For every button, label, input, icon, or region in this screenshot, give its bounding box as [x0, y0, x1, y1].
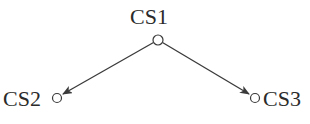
node-label-cs1: CS1 — [130, 6, 168, 28]
node-label-cs3: CS3 — [263, 88, 301, 110]
node-cs3 — [251, 94, 260, 103]
node-label-cs2: CS2 — [3, 88, 41, 110]
node-cs2 — [53, 94, 62, 103]
edge-cs1-to-cs2 — [63, 43, 154, 95]
edge-cs1-to-cs3 — [163, 43, 250, 95]
node-cs1 — [153, 35, 163, 45]
